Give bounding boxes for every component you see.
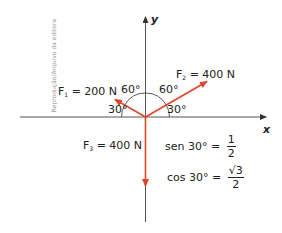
y-axis-label: y	[151, 14, 158, 25]
angle-f1-y: 60°	[121, 84, 141, 95]
sen-formula: sen 30° = 1 2	[165, 134, 236, 159]
f2-label: F2 = 400 N	[176, 69, 235, 81]
sen-denominator: 2	[228, 147, 235, 159]
f3-value: = 400 N	[93, 139, 142, 152]
x-axis-label: x	[263, 124, 270, 135]
angle-f2-x: 30°	[167, 104, 187, 115]
sen-fraction: 1 2	[227, 134, 236, 159]
force-diagram	[0, 0, 282, 233]
sen-lhs: sen 30° =	[165, 140, 220, 153]
angle-f2-y: 60°	[159, 84, 179, 95]
cos-denominator: 2	[232, 178, 239, 190]
cos-numerator: √3	[228, 165, 244, 178]
f3-label: F3 = 400 N	[83, 140, 142, 152]
cos-fraction: √3 2	[228, 165, 244, 190]
f2-value: = 400 N	[186, 68, 235, 81]
image-credit: Reprodução/Arquivo da editora	[50, 11, 57, 121]
sen-numerator: 1	[227, 134, 236, 147]
cos-lhs: cos 30° =	[167, 171, 221, 184]
f1-value: = 200 N	[68, 85, 117, 98]
cos-formula: cos 30° = √3 2	[167, 165, 244, 190]
f1-label: F1 = 200 N	[58, 86, 117, 98]
angle-f1-x: 30°	[108, 104, 128, 115]
